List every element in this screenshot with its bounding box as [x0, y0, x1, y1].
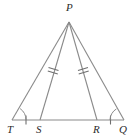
segment-PT — [12, 22, 69, 120]
angle-arc-at-T — [20, 109, 26, 120]
vertex-label-R: R — [93, 124, 100, 135]
vertex-label-S: S — [36, 124, 42, 135]
vertex-label-Q: Q — [119, 124, 127, 135]
segment-PR — [69, 22, 97, 120]
geometry-figure: P T S R Q — [0, 0, 135, 139]
tick-marks-PS-double — [48, 68, 59, 75]
vertex-label-P: P — [66, 2, 73, 13]
segment-PS — [40, 22, 69, 120]
vertex-label-T: T — [7, 124, 13, 135]
segment-PQ — [69, 22, 124, 120]
diagram-canvas — [0, 0, 135, 139]
